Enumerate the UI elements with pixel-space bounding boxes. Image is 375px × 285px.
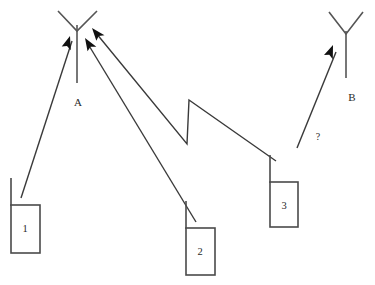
handset-label-3: 3 — [281, 200, 286, 211]
handset-label-1: 1 — [22, 223, 27, 234]
diagram-canvas: A B 1 2 3 ? — [0, 0, 375, 285]
handset-label-2: 2 — [197, 246, 202, 257]
unknown-handover-marker: ? — [316, 131, 321, 142]
handover-diagram: A B 1 2 3 ? — [0, 0, 375, 285]
base-station-label-A: A — [74, 96, 82, 108]
base-station-label-B: B — [348, 91, 355, 103]
